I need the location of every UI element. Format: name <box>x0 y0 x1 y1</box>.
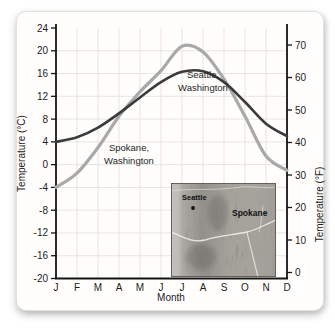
series-label-line: Spokane, <box>83 142 175 155</box>
c-tick-label: 0 <box>22 159 48 170</box>
c-tick-label: 4 <box>22 136 48 147</box>
f-tick-label: 20 <box>295 202 321 213</box>
c-tick-label: -4 <box>22 182 48 193</box>
map-label-spokane: Spokane <box>232 208 268 218</box>
c-tick-label: 12 <box>22 91 48 102</box>
x-axis-label-month: Month <box>141 292 201 303</box>
f-tick-label: 70 <box>295 40 321 51</box>
month-tick-label: O <box>238 282 252 293</box>
map-label-seattle: Seattle <box>182 193 207 202</box>
month-tick-label: M <box>133 282 147 293</box>
month-tick-label: F <box>70 282 84 293</box>
series-label-line: Washington <box>157 82 249 95</box>
c-tick-label: 16 <box>22 68 48 79</box>
y-axis-label-celsius: Temperature (°C) <box>16 84 27 224</box>
climograph-figure: Temperature (°C) Temperature (°F) Month … <box>0 0 335 329</box>
month-tick-label: N <box>259 282 273 293</box>
washington-relief-map: Seattle Spokane <box>171 183 276 277</box>
month-tick-label: J <box>49 282 63 293</box>
month-tick-label: J <box>154 282 168 293</box>
f-tick-label: 40 <box>295 137 321 148</box>
f-tick-label: 10 <box>295 235 321 246</box>
month-tick-label: A <box>112 282 126 293</box>
c-tick-label: 20 <box>22 45 48 56</box>
f-tick-label: 60 <box>295 72 321 83</box>
c-tick-label: 24 <box>22 23 48 34</box>
series-label-line: Seattle, <box>157 69 249 82</box>
month-tick-label: J <box>175 282 189 293</box>
c-tick-label: 8 <box>22 114 48 125</box>
series-label-spokane: Spokane, Washington <box>83 142 175 167</box>
seattle-city-dot <box>191 206 195 210</box>
c-tick-label: -16 <box>22 250 48 261</box>
c-tick-label: -12 <box>22 227 48 238</box>
f-tick-label: 50 <box>295 105 321 116</box>
series-label-seattle: Seattle, Washington <box>157 69 249 94</box>
c-tick-label: -8 <box>22 205 48 216</box>
month-tick-label: M <box>91 282 105 293</box>
month-tick-label: D <box>280 282 294 293</box>
f-tick-label: 0 <box>295 267 321 278</box>
c-tick-label: -20 <box>22 273 48 284</box>
series-label-line: Washington <box>83 155 175 168</box>
month-tick-label: A <box>196 282 210 293</box>
f-tick-label: 30 <box>295 170 321 181</box>
month-tick-label: S <box>217 282 231 293</box>
